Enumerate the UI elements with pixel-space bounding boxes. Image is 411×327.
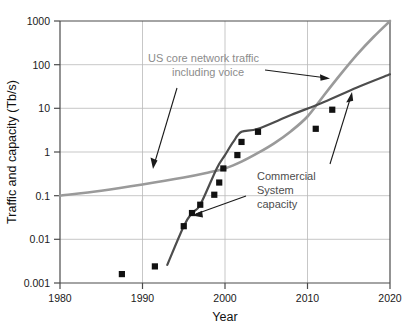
x-tick-label-2000: 2000 — [213, 292, 237, 304]
x-tick-marks — [60, 283, 390, 289]
data-point-marker — [216, 179, 222, 185]
commercial-system-capacity-label-line-1: Commercial — [257, 170, 316, 182]
data-point-marker — [238, 139, 244, 145]
y-tick-label-1000: 1000 — [27, 15, 51, 27]
chart-figure: 1000 100 10 1 0.1 0.01 0.001 1980 1990 2… — [0, 0, 411, 327]
data-point-marker — [119, 271, 125, 277]
x-tick-label-2020: 2020 — [378, 292, 402, 304]
y-tick-label-1: 1 — [44, 146, 50, 158]
y-tick-label-0.01: 0.01 — [30, 233, 51, 245]
x-tick-label-2010: 2010 — [296, 292, 320, 304]
data-point-marker — [152, 263, 158, 269]
us-core-network-traffic-label-line-1: US core network traffic — [148, 52, 260, 64]
x-tick-label-1990: 1990 — [131, 292, 155, 304]
commercial-system-capacity-label-line-3: capacity — [257, 198, 298, 210]
data-point-marker — [313, 126, 319, 132]
data-point-marker — [181, 223, 187, 229]
data-point-marker — [197, 202, 203, 208]
data-point-marker — [255, 129, 261, 135]
commercial-system-capacity-label-line-2: System — [257, 184, 294, 196]
chart-canvas: 1000 100 10 1 0.1 0.01 0.001 1980 1990 2… — [0, 0, 411, 327]
y-tick-label-100: 100 — [32, 59, 50, 71]
y-axis-title: Traffic and capacity (Tb/s) — [5, 80, 19, 224]
data-point-marker — [234, 152, 240, 158]
data-point-marker — [220, 165, 226, 171]
x-axis-title: Year — [212, 310, 237, 324]
data-point-marker — [211, 192, 217, 198]
y-tick-marks — [54, 21, 60, 283]
y-tick-label-0.1: 0.1 — [35, 190, 50, 202]
y-tick-label-10: 10 — [38, 102, 50, 114]
us-core-network-traffic-label-line-2: including voice — [172, 66, 244, 78]
x-tick-label-1980: 1980 — [48, 292, 72, 304]
data-point-marker — [329, 107, 335, 113]
y-tick-label-0.001: 0.001 — [24, 277, 50, 289]
